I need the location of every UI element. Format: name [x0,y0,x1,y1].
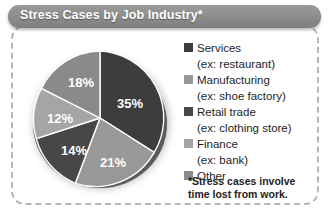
legend-swatch-icon [184,107,193,116]
pie-svg: 35% 21% 14% 12% 18% [24,42,176,194]
chart-title-bar: Stress Cases by Job Industry* [8,5,321,28]
legend-item-manufacturing: Manufacturing (ex: shoe factory) [184,72,312,103]
legend-item-retail-trade: Retail trade (ex: clothing store) [184,104,312,135]
footnote-line-1: *Stress cases involve [188,175,318,188]
pie-label-other: 18% [68,75,94,90]
footnote-line-2: time lost from work. [188,188,318,201]
legend-swatch-icon [184,139,193,148]
pie-label-manufacturing: 21% [100,155,126,170]
page-title: Stress Cases by Job Industry* [20,8,203,22]
legend-sub-manufacturing: (ex: shoe factory) [197,90,286,102]
pie-label-services: 35% [117,96,143,111]
legend-sub-finance: (ex: bank) [197,154,248,166]
legend-item-finance: Finance (ex: bank) [184,136,312,167]
pie-chart: 35% 21% 14% 12% 18% [24,42,176,194]
legend-label-finance: Finance [197,138,238,150]
legend-label-services: Services [197,42,241,54]
legend-item-services: Services (ex: restaurant) [184,40,312,71]
pie-label-retail-trade: 14% [61,143,87,158]
legend-sub-services: (ex: restaurant) [197,58,275,70]
chart-figure: Stress Cases by Job Industry* 35% 21% 14… [0,0,333,218]
legend-label-retail-trade: Retail trade [197,106,256,118]
chart-legend: Services (ex: restaurant) Manufacturing … [184,40,312,185]
legend-swatch-icon [184,75,193,84]
pie-label-finance: 12% [47,111,73,126]
legend-label-manufacturing: Manufacturing [197,74,270,86]
legend-sub-retail-trade: (ex: clothing store) [197,122,292,134]
legend-swatch-icon [184,43,193,52]
chart-footnote: *Stress cases involve time lost from wor… [188,175,318,200]
